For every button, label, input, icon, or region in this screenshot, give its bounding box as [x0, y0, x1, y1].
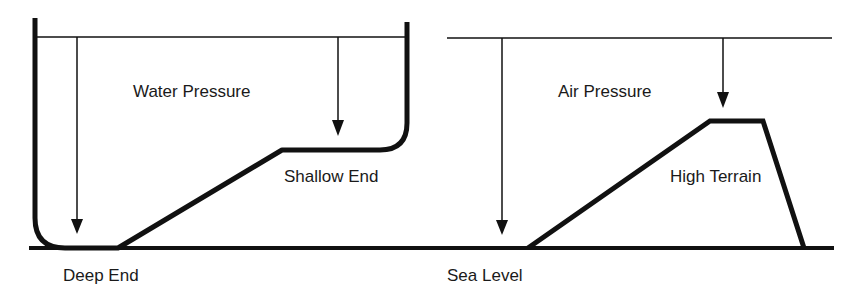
sea-level-pressure-arrow	[496, 38, 508, 235]
terrain-pressure-arrow	[717, 38, 729, 108]
high-terrain-label: High Terrain	[670, 168, 761, 185]
shallow-end-label: Shallow End	[284, 168, 379, 185]
deep-pressure-arrow	[71, 37, 83, 234]
shallow-pressure-arrow	[332, 37, 344, 136]
deep-end-label: Deep End	[63, 267, 139, 284]
pressure-diagram	[0, 0, 864, 296]
pool-outline	[35, 18, 407, 248]
sea-level-label: Sea Level	[447, 267, 523, 284]
terrain-outline	[528, 121, 804, 248]
water-pressure-label: Water Pressure	[133, 83, 250, 100]
air-pressure-label: Air Pressure	[558, 83, 652, 100]
